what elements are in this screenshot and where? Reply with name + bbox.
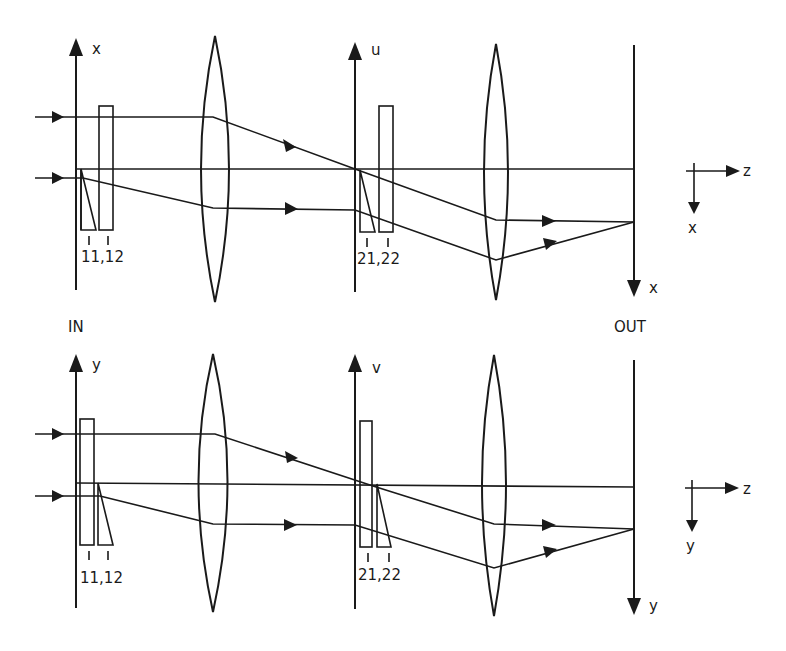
arrow-down-icon [627, 280, 641, 297]
arrow-up-icon [348, 354, 362, 372]
arrow-right-icon [284, 519, 297, 531]
intermediate-axis-label: v [372, 359, 381, 377]
element-label-21-22: 21,22 [358, 566, 401, 584]
arrow-right-icon [285, 202, 298, 215]
arrow-right-icon [52, 172, 64, 184]
coordinate-frame-bottom: z y [685, 480, 751, 555]
ray-2 [35, 496, 634, 568]
arrow-up-icon [69, 354, 83, 372]
lens-1 [199, 354, 228, 612]
coordinate-frame-top: z x [686, 162, 751, 237]
output-axis-label: x [649, 279, 658, 297]
output-plane-axis: x [627, 45, 658, 297]
arrow-right-icon [543, 546, 557, 558]
arrow-down-icon [627, 598, 641, 615]
element-label-11-12: 11,12 [81, 248, 124, 266]
wedge-21 [360, 170, 375, 232]
optical-diagram: x u x 11,12 21,22 [0, 0, 786, 651]
arrow-up-icon [348, 42, 362, 60]
input-axis-label: y [92, 356, 101, 374]
svg-text:y: y [686, 537, 695, 555]
arrow-right-icon [52, 490, 64, 502]
svg-text:z: z [743, 480, 751, 498]
arrow-right-icon [52, 428, 64, 440]
arrow-right-icon [52, 111, 64, 123]
svg-text:z: z [743, 162, 751, 180]
element-label-11-12: 11,12 [80, 569, 123, 587]
arrow-right-icon [542, 519, 556, 531]
svg-text:x: x [688, 219, 697, 237]
output-axis-label: y [649, 597, 658, 615]
plate-11 [80, 419, 94, 545]
arrow-up-icon [69, 38, 83, 56]
input-axis-label: x [92, 40, 101, 58]
wedge-22 [377, 484, 391, 547]
element-label-21-22: 21,22 [357, 250, 400, 268]
bottom-panel: y v y 11,12 21,22 [35, 354, 751, 616]
wedge-12 [98, 483, 113, 545]
top-panel: x u x 11,12 21,22 [35, 36, 751, 302]
out-label: OUT [614, 318, 647, 336]
intermediate-axis-label: u [371, 41, 381, 59]
ray-1 [35, 434, 634, 529]
arrow-right-icon [283, 139, 296, 152]
arrow-right-icon [542, 215, 556, 227]
in-label: IN [68, 318, 84, 336]
plate-12 [99, 106, 113, 230]
lens-2 [484, 44, 508, 300]
